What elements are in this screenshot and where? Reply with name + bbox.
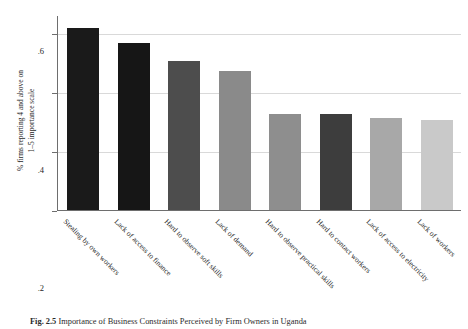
bar (168, 61, 200, 210)
x-axis-label: Stealing by own workers (62, 217, 122, 277)
x-axis-label: Hard to contact workers (314, 217, 372, 275)
y-axis-title-line2: 1–5 importance scale (26, 21, 37, 221)
bar (269, 114, 301, 210)
x-axis-line (57, 210, 461, 211)
bar (320, 114, 352, 210)
bar (67, 28, 99, 210)
y-axis-title: % firms reporting 4 and above on 1–5 imp… (16, 21, 37, 221)
y-axis-line (57, 16, 58, 211)
y-axis-tick-label: .6 (38, 46, 44, 56)
gridline (58, 34, 461, 35)
bar (370, 118, 402, 210)
x-axis-label: Lack of workers (415, 217, 457, 259)
y-axis-tick: .2 (52, 152, 57, 153)
figure-container: % firms reporting 4 and above on 1–5 imp… (0, 0, 468, 329)
y-axis-title-line1: % firms reporting 4 and above on (16, 21, 27, 221)
figure-caption-text: Importance of Business Constraints Perce… (58, 317, 306, 326)
plot-area: 0.2.4.6 (57, 16, 461, 211)
y-axis-tick: .6 (52, 34, 57, 35)
bar (421, 120, 453, 210)
y-axis-tick-label: .2 (38, 283, 44, 293)
figure-caption-label: Fig. 2.5 (30, 317, 56, 326)
figure-caption: Fig. 2.5 Importance of Business Constrai… (30, 316, 450, 327)
x-axis-category-labels: Stealing by own workersLack of access to… (57, 213, 461, 305)
bar (219, 71, 251, 210)
x-axis-label: Lack of access to finance (112, 217, 173, 278)
y-axis-tick-label: .4 (38, 165, 44, 175)
x-axis-label: Lack of demand (213, 217, 254, 258)
bar (118, 43, 150, 210)
y-axis-tick: .4 (52, 93, 57, 94)
y-axis-tick: 0 (52, 211, 57, 212)
